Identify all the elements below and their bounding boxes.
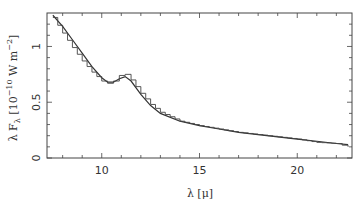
chart: 10152000.51 λ [μ] λ Fλ [10−10 W m−2] bbox=[0, 0, 363, 206]
observed-histogram bbox=[53, 17, 348, 146]
svg-text:20: 20 bbox=[290, 164, 304, 177]
x-axis-label: λ [μ] bbox=[187, 187, 213, 200]
svg-text:0.5: 0.5 bbox=[30, 93, 43, 111]
y-axis-label: λ Fλ [10−10 W m−2] bbox=[5, 35, 22, 142]
svg-text:1: 1 bbox=[30, 43, 43, 50]
svg-text:10: 10 bbox=[95, 164, 109, 177]
plot-frame bbox=[47, 13, 352, 158]
svg-text:0: 0 bbox=[30, 155, 43, 162]
axis-ticks bbox=[47, 13, 352, 158]
tick-labels: 10152000.51 bbox=[30, 43, 304, 177]
svg-text:15: 15 bbox=[193, 164, 207, 177]
